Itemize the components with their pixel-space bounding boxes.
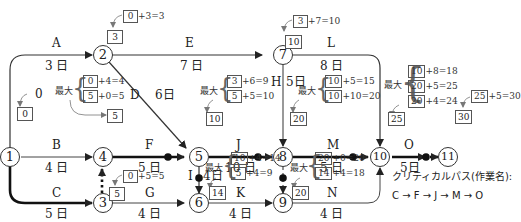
n6-max-label: 最大	[205, 163, 223, 173]
activity-K-name: K	[236, 187, 245, 199]
n4-calc-2: 5+0=5	[83, 90, 125, 103]
activity-L-duration: 8 日	[320, 60, 343, 72]
activity-N-name: N	[327, 187, 338, 199]
n4-max-label: 最大	[55, 86, 73, 96]
node-10: 10	[370, 147, 390, 167]
activity-M-name: M	[327, 139, 339, 151]
n7-earliest-box: 10	[285, 35, 302, 49]
activity-F-name: F	[145, 139, 153, 151]
activity-L-name: L	[327, 37, 335, 49]
n10-calc-2: 20+5=25	[408, 80, 458, 93]
n9-earliest-box: 20	[292, 186, 309, 200]
n3-earliest-box: 5	[109, 187, 125, 201]
activity-B-name: B	[52, 139, 61, 151]
n6-calc-2: 5+4=9	[231, 167, 273, 180]
n1-start-label: 0	[35, 88, 43, 100]
n7-calc: 3+7=10	[293, 15, 340, 28]
activity-C-name: C	[52, 187, 61, 199]
node-11: 11	[438, 147, 458, 167]
node-9: 9	[273, 193, 293, 213]
n10-calc-1: 10+8=18	[408, 65, 458, 78]
activity-G-duration: 4 日	[138, 208, 161, 220]
activity-E-name: E	[185, 37, 194, 49]
n8-earliest-box: 20	[290, 112, 307, 126]
n9-calc-2: 14+4=18	[315, 167, 365, 180]
critical-path-sequence: C → F → J → M → O	[392, 189, 483, 203]
activity-B-duration: 4 日	[45, 162, 68, 174]
critical-path-title: クリティカルパス(作業名):	[392, 170, 512, 184]
n3-calc: 0+5=5	[123, 170, 165, 183]
activity-E-duration: 7 日	[180, 60, 203, 72]
n5-calc-2: 5+5=10	[227, 90, 274, 103]
n8-calc-1: 10+5=15	[325, 75, 375, 88]
activity-I-name: I	[188, 170, 193, 182]
activity-K-duration: 4 日	[229, 208, 252, 220]
n11-earliest-box: 30	[455, 110, 472, 124]
n5-max-label: 最大	[200, 86, 218, 96]
n9-calc-1: 20+0=20	[315, 152, 365, 165]
activity-D-name: D	[130, 89, 140, 101]
n5-earliest-box: 10	[206, 112, 223, 126]
n2-calc: 0+3=3	[123, 10, 165, 23]
n6-earliest-box: 14	[209, 186, 226, 200]
activity-N-duration: 4 日	[320, 208, 343, 220]
n4-calc-1: 0+4=4	[83, 75, 125, 88]
activity-D-duration: 6日	[155, 89, 175, 101]
n2-earliest-box: 3	[107, 30, 123, 44]
n6-calc-1: 10+4=14	[231, 152, 281, 165]
n10-calc-3: 20+4=24	[408, 95, 458, 108]
n10-earliest-box: 25	[388, 112, 405, 126]
node-2: 2	[93, 45, 113, 65]
n11-calc: 25+5=30	[471, 90, 521, 103]
n5-calc-1: 3+6=9	[227, 75, 269, 88]
node-6: 6	[189, 193, 209, 213]
n8-calc-2: 10+10=20	[325, 90, 380, 103]
n4-earliest-box: 5	[107, 109, 123, 123]
n8-max-label: 最大	[298, 86, 316, 96]
activity-O-name: O	[404, 139, 414, 151]
activity-C-duration: 5 日	[45, 208, 68, 220]
activity-A-name: A	[52, 37, 61, 49]
n1-earliest-box: 0	[17, 107, 33, 121]
node-1: 1	[0, 147, 20, 167]
activity-G-name: G	[145, 187, 155, 199]
activity-A-duration: 3 日	[45, 60, 68, 72]
node-4: 4	[93, 147, 113, 167]
activity-H-name: H	[271, 76, 281, 88]
